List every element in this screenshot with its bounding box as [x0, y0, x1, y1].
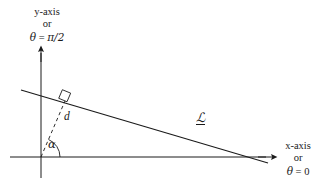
y-axis-label-line1: y-axis: [12, 6, 82, 18]
x-axis-label-line3: θ = 0: [272, 165, 323, 178]
angle-label-alpha: α: [48, 138, 56, 152]
equals-sign-y: =: [36, 32, 47, 43]
x-axis-theta-value: 0: [304, 166, 309, 177]
x-axis-label-line2: or: [272, 152, 323, 164]
y-axis-theta-value: π/2: [47, 31, 64, 43]
distance-label-d: d: [64, 110, 70, 124]
line-L-stroke: [21, 90, 268, 163]
script-l-glyph: ℒ: [196, 111, 205, 125]
x-axis-label: x-axis or θ = 0: [272, 140, 323, 178]
line-normal-form-diagram: y-axis or θ = π/2 x-axis or θ = 0 d α ℒ: [0, 0, 323, 185]
x-axis-label-line1: x-axis: [272, 140, 323, 152]
right-angle-marker: [59, 90, 71, 102]
y-axis-label-line3: θ = π/2: [12, 31, 82, 44]
y-axis-label-line2: or: [12, 18, 82, 30]
line-label-script-l: ℒ: [196, 110, 205, 125]
y-axis-label: y-axis or θ = π/2: [12, 6, 82, 44]
equals-sign-x: =: [293, 166, 304, 177]
